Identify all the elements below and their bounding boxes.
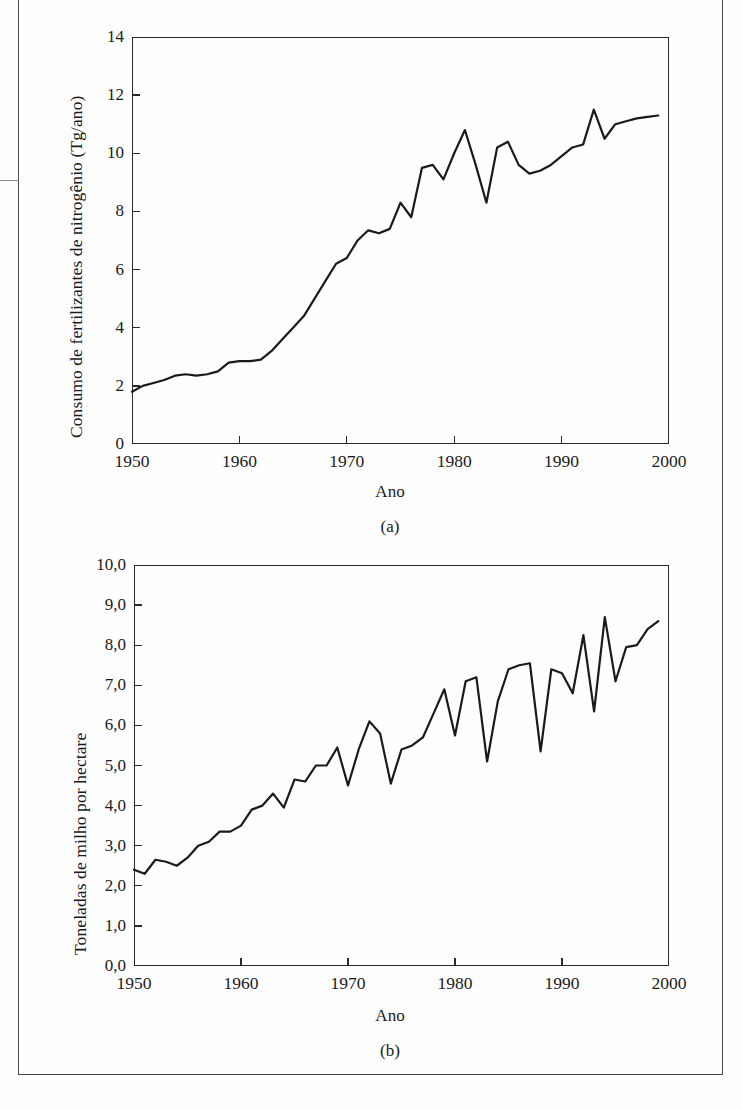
chart-panel-b: Toneladas de milho por hectare 10,09,08,… — [0, 545, 742, 1065]
series-line — [134, 617, 658, 874]
x-axis-label-b: Ano — [330, 1006, 450, 1026]
x-axis-label-a: Ano — [330, 482, 450, 502]
chart-line-a — [0, 0, 742, 545]
panel-caption-a: (a) — [330, 517, 450, 537]
page-border-bottom — [18, 1074, 723, 1075]
series-line — [132, 110, 658, 392]
chart-panel-a: Consumo de fertilizantes de nitrogênio (… — [0, 0, 742, 545]
chart-line-b — [0, 545, 742, 1065]
panel-caption-b: (b) — [330, 1041, 450, 1061]
figure-page: Consumo de fertilizantes de nitrogênio (… — [0, 0, 742, 1109]
